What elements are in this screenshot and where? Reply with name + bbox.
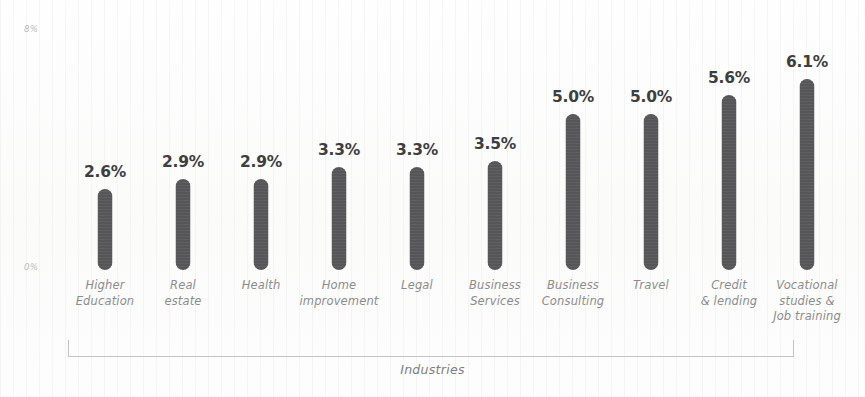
chart-screenshot: Average Conversion rate % 8% 0% 2.6%2.9%… (0, 0, 865, 397)
x-axis-category-label-line: Health (219, 278, 303, 294)
x-axis-category-label-line: Legal (375, 278, 459, 294)
x-axis-category-label: Realestate (141, 278, 225, 309)
x-axis-category-label: Homeimprovement (297, 278, 381, 309)
x-axis-category-label: BusinessServices (453, 278, 537, 309)
y-axis-tick-label-zero: 0% (24, 262, 38, 272)
x-axis-category-label-line: Credit (687, 278, 771, 294)
x-axis-category-label: HigherEducation (63, 278, 147, 309)
bar-slot: 2.9% (144, 20, 222, 270)
bar-slot: 6.1% (768, 20, 846, 270)
x-axis-category-label-line: studies & (765, 294, 849, 310)
bar-slot: 5.0% (612, 20, 690, 270)
x-axis-category-label-line: Business (531, 278, 615, 294)
x-axis-category-label: Credit& lending (687, 278, 771, 309)
x-axis-category-label-line: Real (141, 278, 225, 294)
x-axis-category-label-line: estate (141, 294, 225, 310)
x-axis-category-label-line: & lending (687, 294, 771, 310)
x-axis-category-label-line: Travel (609, 278, 693, 294)
bar[interactable] (566, 114, 581, 270)
bar[interactable] (176, 179, 191, 270)
x-axis-category-label: BusinessConsulting (531, 278, 615, 309)
bar[interactable] (410, 167, 425, 270)
x-axis-category-label: Travel (609, 278, 693, 294)
bar[interactable] (644, 114, 659, 270)
bar-value-label: 2.9% (162, 153, 204, 171)
bar-value-label: 5.0% (630, 88, 672, 106)
plot-area: 2.6%2.9%2.9%3.3%3.3%3.5%5.0%5.0%5.6%6.1% (60, 20, 860, 270)
bar-slot: 2.6% (66, 20, 144, 270)
bar-slot: 3.3% (378, 20, 456, 270)
bar[interactable] (332, 167, 347, 270)
bar[interactable] (98, 189, 113, 270)
bar-slot: 5.0% (534, 20, 612, 270)
x-axis-category-label: Health (219, 278, 303, 294)
bar-value-label: 5.6% (708, 69, 750, 87)
x-axis-title: Industries (0, 362, 865, 377)
bar-slot: 3.5% (456, 20, 534, 270)
bar-slot: 5.6% (690, 20, 768, 270)
x-axis-category-label: Legal (375, 278, 459, 294)
bar-slot: 3.3% (300, 20, 378, 270)
bar[interactable] (800, 79, 815, 270)
y-axis-tick-label-top: 8% (24, 24, 38, 34)
bar-value-label: 3.3% (396, 141, 438, 159)
bar-value-label: 3.5% (474, 135, 516, 153)
x-axis-bracket (68, 340, 794, 357)
x-axis-category-label: Vocationalstudies &Job training (765, 278, 849, 325)
x-axis-category-label-line: Education (63, 294, 147, 310)
bar[interactable] (254, 179, 269, 270)
x-axis-category-label-line: Consulting (531, 294, 615, 310)
bar-value-label: 2.9% (240, 153, 282, 171)
bar-value-label: 2.6% (84, 163, 126, 181)
bar-slot: 2.9% (222, 20, 300, 270)
x-axis-category-label-line: Home (297, 278, 381, 294)
bar-value-label: 5.0% (552, 88, 594, 106)
bar-value-label: 6.1% (786, 53, 828, 71)
bar-value-label: 3.3% (318, 141, 360, 159)
x-axis-category-label-line: Higher (63, 278, 147, 294)
x-axis-category-label-line: Vocational (765, 278, 849, 294)
x-axis-category-label-line: Business (453, 278, 537, 294)
bar[interactable] (488, 161, 503, 270)
x-axis-category-label-line: Services (453, 294, 537, 310)
x-axis-category-labels: HigherEducationRealestateHealthHomeimpro… (60, 278, 860, 344)
x-axis-category-label-line: Job training (765, 309, 849, 325)
bar[interactable] (722, 95, 737, 270)
x-axis-category-label-line: improvement (297, 294, 381, 310)
